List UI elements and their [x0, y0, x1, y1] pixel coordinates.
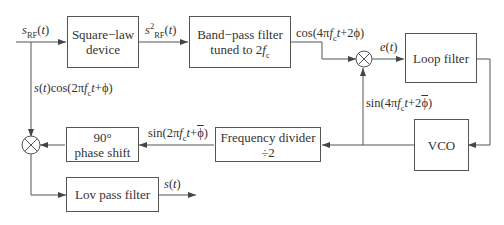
- lpf-label: Lov pass filter: [75, 187, 150, 202]
- freq-div-label-1: Frequency divider: [221, 130, 316, 145]
- signal-squared-label: s2RF(t): [145, 23, 176, 37]
- loop-filter-label: Loop filter: [413, 51, 469, 66]
- signal-error-label: e(t): [380, 40, 397, 54]
- bpf-label-1: Band−pass filter: [197, 27, 283, 42]
- square-law-label-2: device: [86, 42, 120, 57]
- bpf-label-2: tuned to 2fc: [210, 42, 269, 57]
- signal-branch-label: s(t)cos(2πfct+ϕ): [34, 81, 113, 95]
- band-pass-filter-block: Band−pass filter tuned to 2fc: [189, 16, 291, 68]
- vco-block: VCO: [414, 119, 469, 171]
- signal-output-label: s(t): [164, 177, 181, 191]
- signal-divider-out-label: sin(2πfct+ϕ): [148, 126, 208, 140]
- freq-div-label-2: ÷2: [261, 145, 275, 160]
- phase-shift-label-2: phase shift: [75, 145, 131, 160]
- phase-shift-block: 90° phase shift: [66, 127, 139, 162]
- frequency-divider-block: Frequency divider ÷2: [215, 127, 321, 162]
- signal-bpf-out-label: cos(4πfct+2ϕ): [296, 26, 364, 40]
- vco-label: VCO: [428, 138, 455, 153]
- low-pass-filter-block: Lov pass filter: [66, 177, 159, 212]
- mixer-top: [356, 51, 372, 67]
- signal-input-label: sRF(t): [22, 23, 49, 37]
- square-law-device-block: Square−law device: [67, 16, 139, 68]
- phase-shift-label-1: 90°: [93, 130, 111, 145]
- loop-filter-block: Loop filter: [405, 33, 477, 83]
- mixer-bottom: [22, 136, 40, 154]
- square-law-label-1: Square−law: [72, 27, 134, 42]
- signal-vco-feedback-label: sin(4πfct+2ϕ): [366, 96, 432, 110]
